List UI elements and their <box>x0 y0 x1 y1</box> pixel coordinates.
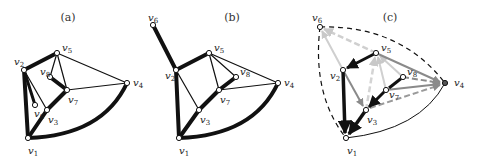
label-v4: v4 <box>454 77 465 90</box>
edge-v5-v4 <box>57 53 127 83</box>
label-v5: v5 <box>381 42 391 55</box>
graph-figure: (a) v1v2v3v4v5v6v7v8 (b) v1v2v3v4v5v6v7v… <box>0 0 479 161</box>
edge-v3-v7 <box>47 90 67 110</box>
node-v7 <box>64 87 69 92</box>
edge-v3-v7 <box>199 90 219 110</box>
edge-v7-v4 <box>67 83 127 90</box>
arrow-v5-v2 <box>347 53 376 68</box>
node-v2 <box>340 67 345 72</box>
arc-v1-v4 <box>346 83 445 138</box>
label-v3: v3 <box>367 114 377 127</box>
panel-c-caption: (c) <box>383 11 398 24</box>
edge-v5-v8 <box>209 53 236 77</box>
node-v6 <box>32 102 37 107</box>
label-v1: v1 <box>28 145 38 158</box>
label-v7: v7 <box>220 94 230 107</box>
panel-b: (b) v1v2v3v4v5v6v7v8 <box>148 11 295 158</box>
node-v1 <box>343 135 348 140</box>
arrow-v2-v3 <box>343 70 363 106</box>
label-v7: v7 <box>68 94 78 107</box>
arrow-v2-v1 <box>343 70 345 133</box>
node-v5 <box>373 50 378 55</box>
node-v7 <box>383 87 388 92</box>
node-v4 <box>124 80 129 85</box>
arrow-v3-v1 <box>349 110 366 134</box>
panel-c: (c) v1v2v3v4v5v6v7v8 <box>312 11 465 158</box>
label-v2: v2 <box>14 56 24 69</box>
node-v5 <box>54 50 59 55</box>
edge-v5-v7 <box>209 53 219 90</box>
node-v3 <box>196 107 201 112</box>
node-v8 <box>233 74 238 79</box>
node-v4 <box>442 80 447 85</box>
panel-b-caption: (b) <box>224 11 240 24</box>
label-v1: v1 <box>347 145 357 158</box>
edge-v6-v2 <box>153 25 176 70</box>
label-v1: v1 <box>179 145 189 158</box>
edge-v1-v4 <box>28 83 127 138</box>
edge-v2-v5 <box>176 53 209 70</box>
node-v1 <box>176 135 181 140</box>
node-v3 <box>363 107 368 112</box>
node-v2 <box>173 67 178 72</box>
node-v3 <box>44 107 49 112</box>
edge-v1-v3 <box>179 110 199 138</box>
arrow-v7-v5 <box>378 57 386 90</box>
panel-a: (a) v1v2v3v4v5v6v7v8 <box>14 11 144 158</box>
label-v6: v6 <box>312 12 323 25</box>
label-v6: v6 <box>34 108 45 121</box>
label-v3: v3 <box>200 114 210 127</box>
node-v7 <box>216 87 221 92</box>
node-v6 <box>317 24 322 29</box>
label-v5: v5 <box>62 42 72 55</box>
label-v3: v3 <box>48 114 58 127</box>
node-v4 <box>275 80 280 85</box>
label-v6: v6 <box>148 12 159 25</box>
panel-a-caption: (a) <box>60 11 75 24</box>
node-v8 <box>400 74 405 79</box>
label-v2: v2 <box>330 70 340 83</box>
edge-v1-v2 <box>176 70 179 138</box>
label-v8: v8 <box>240 66 250 79</box>
label-v7: v7 <box>389 89 399 102</box>
edge-v1-v4 <box>179 83 278 138</box>
node-v5 <box>206 50 211 55</box>
node-v1 <box>25 135 30 140</box>
label-v4: v4 <box>284 77 295 90</box>
label-v4: v4 <box>133 77 144 90</box>
label-v8: v8 <box>40 66 50 79</box>
label-v5: v5 <box>214 42 224 55</box>
